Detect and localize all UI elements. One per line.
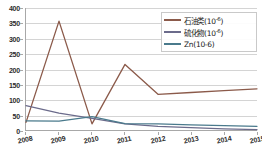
line-chart: 400350300250200150100500 200820092010201… xyxy=(0,0,262,156)
x-tick-label: 2012 xyxy=(150,135,166,145)
y-tick-mark xyxy=(20,131,23,132)
y-tick-mark xyxy=(20,100,23,101)
legend-item[interactable]: Zn(10-6) xyxy=(162,38,256,50)
x-tick-mark xyxy=(191,132,192,135)
legend-label: 硫化物(10-6) xyxy=(184,27,223,38)
y-tick-mark xyxy=(20,85,23,86)
y-tick-mark xyxy=(20,54,23,55)
x-tick-label: 2011 xyxy=(117,135,133,145)
y-tick-mark xyxy=(20,23,23,24)
x-tick-label: 2014 xyxy=(216,135,232,145)
x-tick-label: 2010 xyxy=(83,135,99,145)
x-tick-label: 2013 xyxy=(183,135,199,145)
legend-label: Zn(10-6) xyxy=(184,40,214,49)
x-tick-label: 2008 xyxy=(17,135,33,145)
x-tick-mark xyxy=(158,132,159,135)
legend-item[interactable]: 硫化物(10-6) xyxy=(162,26,256,38)
y-tick-label: 100 xyxy=(9,97,20,104)
y-tick-mark xyxy=(20,39,23,40)
y-tick-label: 150 xyxy=(9,81,20,88)
legend-item[interactable]: 石油类(10-6) xyxy=(162,14,256,26)
y-axis: 400350300250200150100500 xyxy=(0,8,23,131)
y-tick-label: 350 xyxy=(9,20,20,27)
legend-swatch xyxy=(164,43,181,45)
y-tick-mark xyxy=(20,70,23,71)
y-tick-label: 400 xyxy=(9,5,20,12)
legend-swatch xyxy=(164,31,181,33)
x-tick-label: 2009 xyxy=(50,135,66,145)
legend-swatch xyxy=(164,19,181,21)
legend-label: 石油类(10-6) xyxy=(184,15,223,26)
y-tick-label: 250 xyxy=(9,51,20,58)
legend: 石油类(10-6)硫化物(10-6)Zn(10-6) xyxy=(161,12,257,52)
x-tick-mark xyxy=(224,132,225,135)
y-tick-mark xyxy=(20,116,23,117)
x-tick-label: 2015 xyxy=(249,135,262,145)
y-tick-label: 300 xyxy=(9,35,20,42)
y-tick-mark xyxy=(20,8,23,9)
y-tick-label: 200 xyxy=(9,66,20,73)
x-axis: 20082009201020112012201320142015 xyxy=(25,132,257,154)
y-tick-label: 50 xyxy=(13,112,20,119)
